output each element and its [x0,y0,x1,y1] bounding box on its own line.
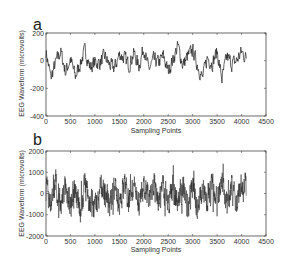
y-tick-label: 200 [32,30,44,37]
x-tick-label: 4000 [234,238,250,245]
x-tick-label: 1500 [112,238,128,245]
y-tick-label: 1000 [28,169,44,176]
x-tick-label: 2500 [160,238,176,245]
x-tick-label: 4500 [258,118,274,125]
x-tick-label: 4500 [258,238,274,245]
x-tick-label: 3000 [185,118,201,125]
y-tick-label: 0 [40,57,44,64]
x-tick-label: 4000 [234,118,250,125]
axes-frame [46,33,266,116]
x-tick-label: 0 [44,238,48,245]
y-tick-label: 2000 [28,148,44,155]
y-tick-label: -400 [30,113,44,120]
eeg-chart: 050010001500200025003000350040004500-400… [0,0,289,271]
x-tick-label: 2000 [136,118,152,125]
x-tick-label: 500 [65,118,77,125]
panel-a-plot: 050010001500200025003000350040004500-400… [30,30,274,126]
x-tick-label: 1000 [87,118,103,125]
y-tick-label: -1000 [26,211,44,218]
x-tick-label: 2000 [136,238,152,245]
x-tick-label: 2500 [160,118,176,125]
x-tick-label: 1000 [87,238,103,245]
x-tick-label: 3000 [185,238,201,245]
y-tick-label: -200 [30,85,44,92]
panel-b-plot: 050010001500200025003000350040004500-200… [26,148,274,246]
x-tick-label: 500 [65,238,77,245]
y-tick-label: -2000 [26,233,44,240]
eeg-waveform-line [46,41,246,83]
x-tick-label: 3500 [209,238,225,245]
x-tick-label: 0 [44,118,48,125]
eeg-waveform-line [46,164,246,223]
x-tick-label: 3500 [209,118,225,125]
y-tick-label: 0 [40,190,44,197]
x-tick-label: 1500 [112,118,128,125]
